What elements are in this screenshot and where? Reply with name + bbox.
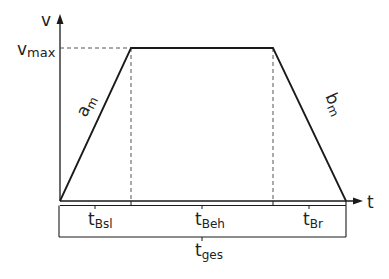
velocity-profile	[60, 48, 346, 201]
vmax-main: v	[17, 39, 27, 59]
interval-label-t-beh: tBeh	[195, 209, 225, 231]
velocity-time-diagram: v t vmax am bm tBsl tBeh tBr tges	[0, 0, 389, 279]
vmax-label: vmax	[17, 39, 56, 60]
accel-slope-label: am	[72, 91, 101, 121]
t-bsl-sub: Bsl	[95, 217, 113, 231]
y-axis-arrow-icon	[57, 14, 64, 24]
x-axis-arrow-icon	[353, 198, 363, 205]
interval-label-t-bsl: tBsl	[88, 209, 113, 231]
x-axis-label: t	[367, 192, 374, 212]
t-br-sub: Br	[310, 217, 323, 231]
vmax-sub: max	[27, 45, 56, 60]
y-axis-label: v	[41, 10, 51, 30]
t-ges-sub: ges	[202, 248, 223, 262]
total-label-t-ges: tges	[195, 240, 223, 262]
t-beh-sub: Beh	[202, 217, 225, 231]
decel-slope-label: bm	[320, 89, 349, 119]
interval-label-t-br: tBr	[303, 209, 323, 231]
